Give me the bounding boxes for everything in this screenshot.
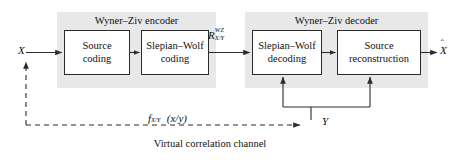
label-side-info-y: Y bbox=[322, 115, 328, 127]
label-rate: R WZ X/Y bbox=[208, 29, 215, 41]
pdf-argument: (x/y) bbox=[167, 112, 187, 124]
label-input-x: X bbox=[18, 44, 25, 56]
figure-caption: Virtual correlation channel bbox=[0, 138, 420, 149]
label-output-xhat: ˆ X bbox=[440, 44, 447, 56]
figure-wyner-ziv-codec: Wyner–Ziv encoder Wyner–Ziv decoder Sour… bbox=[0, 0, 462, 160]
label-conditional-pdf: f X/Y (x/y) bbox=[148, 112, 187, 124]
pdf-subscript: X/Y bbox=[151, 116, 160, 123]
rate-subscript: X/Y bbox=[215, 34, 224, 41]
connector-layer bbox=[0, 0, 462, 160]
xhat-accent: ˆ bbox=[440, 38, 445, 48]
rate-superscript: WZ bbox=[215, 26, 224, 33]
rate-base: R bbox=[208, 29, 215, 41]
